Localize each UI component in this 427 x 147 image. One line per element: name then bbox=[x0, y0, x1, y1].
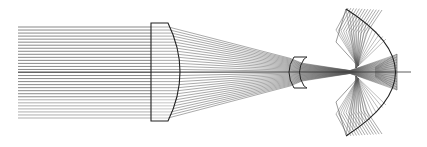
plano-convex-lens bbox=[151, 23, 180, 121]
optical-ray-trace-diagram bbox=[0, 0, 427, 147]
diagram-canvas bbox=[0, 0, 427, 147]
